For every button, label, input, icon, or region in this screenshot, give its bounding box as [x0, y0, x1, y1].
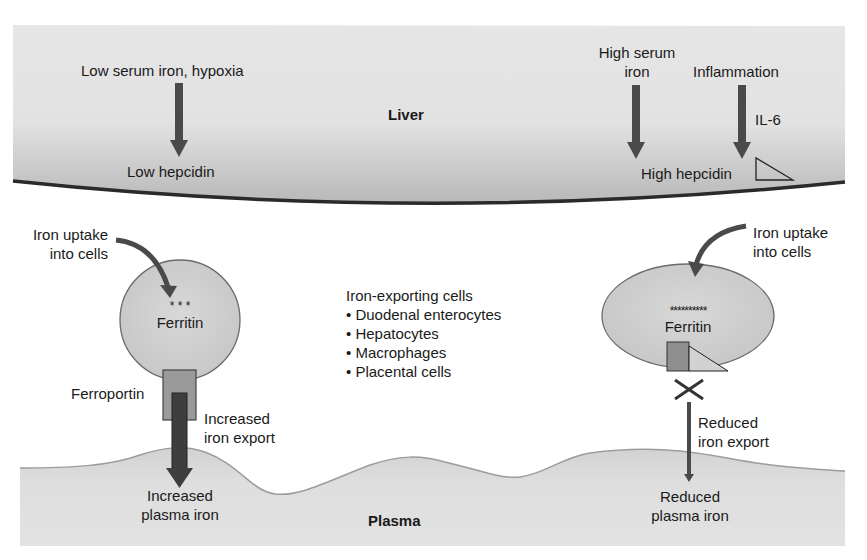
right-ferritin-stores: **********: [640, 306, 736, 316]
liver-label: Liver: [388, 105, 424, 124]
left-ferritin-stores: * * *: [150, 300, 210, 312]
left-ferritin-label: Ferritin: [140, 313, 220, 332]
ferroportin-label: Ferroportin: [71, 384, 144, 403]
iron-exporting-cells-list: Iron-exporting cells • Duodenal enterocy…: [346, 286, 501, 381]
list-item: • Placental cells: [346, 362, 501, 381]
list-title: Iron-exporting cells: [346, 286, 501, 305]
plasma-label: Plasma: [368, 511, 421, 530]
left-iron-uptake-label: Iron uptake into cells: [10, 225, 108, 263]
low-iron-hypoxia-label: Low serum iron, hypoxia: [81, 61, 244, 80]
reduced-export-label: Reduced iron export: [698, 413, 769, 451]
increased-export-label: Increased iron export: [204, 409, 275, 447]
increased-plasma-iron-label: Increased plasma iron: [120, 486, 240, 524]
high-serum-iron-label: High serum iron: [592, 43, 682, 81]
right-iron-uptake-label: Iron uptake into cells: [753, 223, 828, 261]
il6-label: IL-6: [755, 110, 781, 129]
blocked-export-x-icon: [675, 380, 703, 399]
diagram-canvas: [0, 0, 867, 560]
list-item: • Duodenal enterocytes: [346, 305, 501, 324]
reduced-plasma-iron-label: Reduced plasma iron: [640, 487, 740, 525]
high-hepcidin-label: High hepcidin: [641, 164, 732, 183]
ferroportin-channel: [163, 370, 196, 488]
inflammation-label: Inflammation: [693, 62, 779, 81]
list-item: • Macrophages: [346, 343, 501, 362]
low-hepcidin-label: Low hepcidin: [127, 162, 215, 181]
right-uptake-arrow: [696, 226, 746, 265]
list-item: • Hepatocytes: [346, 324, 501, 343]
right-ferritin-label: Ferritin: [645, 317, 731, 336]
